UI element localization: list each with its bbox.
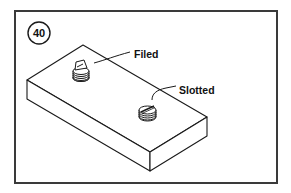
figure-number: 40 xyxy=(33,27,45,39)
slotted-screw xyxy=(139,106,156,121)
illustration: 40 Filed Slotted xyxy=(0,0,291,193)
label-slotted: Slotted xyxy=(179,84,215,96)
plate-block xyxy=(27,45,207,171)
label-filed: Filed xyxy=(134,48,159,60)
figure-number-badge: 40 xyxy=(28,22,50,44)
slotted-screw-head xyxy=(139,106,156,114)
